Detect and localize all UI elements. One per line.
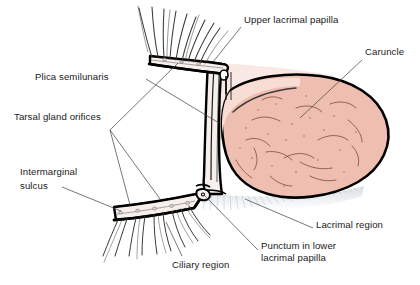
anatomy-illustration [0,0,420,285]
leader-tarsal-upper [110,63,178,130]
label-intermarginal-sulcus-line1: Intermarginal [20,166,77,178]
label-lacrimal-region: Lacrimal region [316,219,383,231]
label-plica-semilunaris: Plica semilunaris [35,71,109,83]
label-punctum-lower-lacrimal-papilla-line1: Punctum in lower [261,240,336,252]
leader-tarsal-mid [110,130,160,199]
leader-ciliary-region [166,222,182,256]
label-caruncle: Caruncle [365,46,404,58]
anatomical-figure-medial-canthus: Upper lacrimal papilla Caruncle Plica se… [0,0,420,285]
lower-lid-margin [114,189,210,220]
leader-intermarginal-sulcus [62,187,121,211]
label-punctum-lower-lacrimal-papilla-line2: lacrimal papilla [261,252,326,264]
label-upper-lacrimal-papilla: Upper lacrimal papilla [244,14,338,26]
upper-eyelashes [139,7,220,63]
leader-tarsal-lower [110,130,130,205]
caruncle-body [220,75,388,198]
label-intermarginal-sulcus-line2: sulcus [20,180,48,192]
label-ciliary-region: Ciliary region [172,259,229,271]
label-tarsal-gland-orifices: Tarsal gland orifices [14,111,101,123]
